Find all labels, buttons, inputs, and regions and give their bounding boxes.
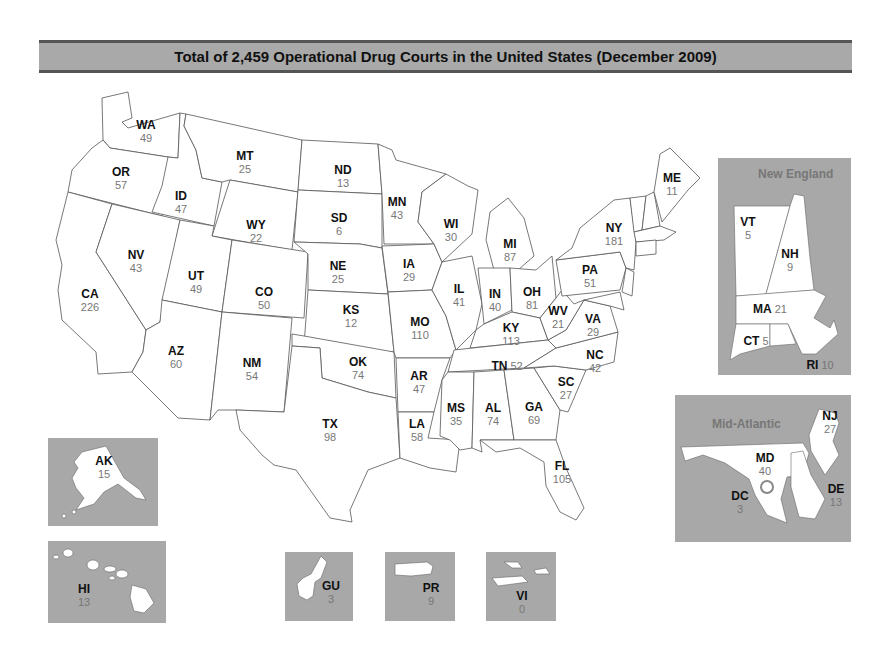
label-de: DE13 bbox=[828, 483, 845, 508]
label-in: IN40 bbox=[489, 288, 501, 313]
new-england-title: New England bbox=[758, 167, 833, 181]
label-ma: MA21 bbox=[753, 300, 787, 316]
inset-hawaii: HI13 bbox=[48, 541, 166, 623]
pr-island[interactable] bbox=[395, 562, 433, 576]
label-la: LA58 bbox=[409, 418, 425, 443]
label-ny: NY181 bbox=[605, 222, 623, 247]
label-tn: TN52 bbox=[491, 357, 522, 373]
inset-virgin-islands: VI0 bbox=[486, 552, 556, 621]
label-md: MD40 bbox=[756, 452, 775, 477]
label-sd: SD6 bbox=[331, 212, 348, 237]
inset-alaska: AK15 bbox=[48, 438, 158, 526]
label-ga: GA69 bbox=[525, 401, 543, 426]
label-or: OR57 bbox=[112, 166, 130, 191]
label-me: ME11 bbox=[663, 172, 681, 197]
label-sc: SC27 bbox=[558, 376, 575, 401]
label-pr: PR9 bbox=[423, 582, 440, 607]
label-ia: IA29 bbox=[403, 258, 415, 283]
label-nd: ND13 bbox=[334, 164, 351, 189]
inset-mid-atlantic: Mid-Atlantic NJ27 MD40 DC3 DE13 bbox=[675, 395, 851, 542]
label-co: CO50 bbox=[255, 286, 273, 311]
label-mt: MT25 bbox=[236, 150, 253, 175]
label-ok: OK74 bbox=[349, 356, 367, 381]
label-oh: OH81 bbox=[523, 286, 541, 311]
label-ar: AR47 bbox=[410, 370, 427, 395]
label-nh: NH9 bbox=[781, 248, 798, 273]
label-nc: NC42 bbox=[586, 349, 603, 374]
label-il: IL41 bbox=[453, 283, 465, 308]
label-ne: NE25 bbox=[330, 260, 347, 285]
guam-shape bbox=[285, 552, 353, 621]
hawaii-shape bbox=[48, 541, 166, 623]
label-vi: VI0 bbox=[516, 590, 527, 615]
label-dc: DC3 bbox=[731, 490, 748, 515]
label-nj: NJ27 bbox=[822, 410, 837, 435]
hi-big-island[interactable] bbox=[130, 585, 154, 613]
label-ct: CT5 bbox=[743, 332, 768, 348]
label-ak: AK15 bbox=[95, 455, 112, 480]
label-va: VA29 bbox=[585, 313, 601, 338]
label-id: ID47 bbox=[175, 190, 187, 215]
alaska-shape bbox=[48, 438, 158, 526]
label-ms: MS35 bbox=[447, 402, 465, 427]
label-ca: CA226 bbox=[81, 288, 99, 313]
label-tx: TX98 bbox=[322, 418, 337, 443]
mid-atlantic-title: Mid-Atlantic bbox=[712, 417, 781, 431]
inset-puerto-rico: PR9 bbox=[385, 552, 455, 621]
label-nv: NV43 bbox=[128, 249, 145, 274]
label-nm: NM54 bbox=[243, 357, 262, 382]
label-al: AL74 bbox=[485, 402, 501, 427]
label-ut: UT49 bbox=[188, 270, 204, 295]
label-az: AZ60 bbox=[168, 345, 184, 370]
label-ky: KY113 bbox=[502, 322, 520, 347]
label-ks: KS12 bbox=[343, 304, 360, 329]
label-fl: FL105 bbox=[553, 460, 571, 485]
vi-st-croix[interactable] bbox=[492, 576, 528, 586]
label-wi: WI30 bbox=[444, 218, 459, 243]
label-mn: MN43 bbox=[388, 196, 407, 221]
label-wy: WY22 bbox=[246, 219, 265, 244]
label-pa: PA51 bbox=[582, 264, 598, 289]
label-gu: GU3 bbox=[322, 580, 340, 605]
dc-star-icon bbox=[760, 480, 774, 494]
label-mi: MI87 bbox=[503, 238, 516, 263]
inset-guam: GU3 bbox=[285, 552, 353, 621]
label-mo: MO110 bbox=[410, 316, 429, 341]
label-wa: WA49 bbox=[136, 119, 155, 144]
label-ri: RI10 bbox=[806, 356, 833, 372]
puerto-rico-shape bbox=[385, 552, 455, 621]
label-vt: VT5 bbox=[740, 216, 755, 241]
label-hi: HI13 bbox=[78, 583, 90, 608]
label-wv: WV21 bbox=[548, 305, 567, 330]
inset-new-england: New England VT5 NH9 MA21 CT5 RI10 bbox=[718, 158, 851, 375]
state-ct-small[interactable] bbox=[636, 240, 656, 256]
